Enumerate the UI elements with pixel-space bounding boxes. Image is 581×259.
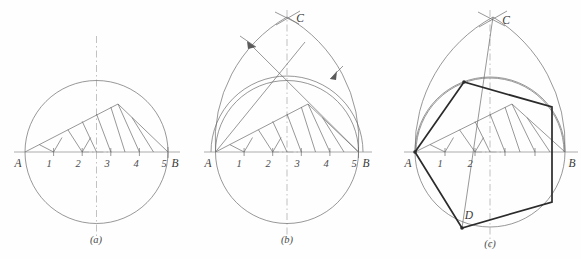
figure-c-label-b: B xyxy=(568,157,575,169)
figure-a-label-b: B xyxy=(171,157,178,169)
figure-c-label-c: C xyxy=(502,14,510,26)
figure-a-division-label-3: 3 xyxy=(103,158,109,169)
figure-b-division-label-2: 2 xyxy=(265,158,271,169)
figure-a-division-label-1: 1 xyxy=(46,158,51,169)
figure-a-division-label-5: 5 xyxy=(161,158,166,169)
figure-b-division-ticks xyxy=(244,147,358,158)
figure-a-division-label-2: 2 xyxy=(75,158,81,169)
figure-c-arc-apex-to-right xyxy=(493,17,565,152)
figure-c-division-label-1: 1 xyxy=(437,158,442,169)
figure-c-division-label-2: 2 xyxy=(467,158,473,169)
figure-b-construction-line-a-to-c xyxy=(216,42,306,152)
figure-a-division-ticks xyxy=(54,147,168,158)
figure-b-division-label-3: 3 xyxy=(293,158,299,169)
figure-b-label-b: B xyxy=(362,157,369,169)
figure-c-caption: (c) xyxy=(484,238,496,250)
figure-c: A B C D 1 2 (c) xyxy=(403,10,578,250)
figure-b-label-a: A xyxy=(203,157,212,169)
figure-b: A B C 1 2 3 4 5 (b) xyxy=(203,10,372,246)
figure-b-label-c: C xyxy=(296,12,304,24)
figure-b-caption: (b) xyxy=(281,234,294,246)
figure-b-division-label-4: 4 xyxy=(323,158,329,169)
figure-c-label-a: A xyxy=(403,157,412,169)
figure-b-construction-line-b-to-c xyxy=(253,47,359,152)
figure-b-division-label-1: 1 xyxy=(236,158,241,169)
figure-a-label-a: A xyxy=(13,157,22,169)
figure-a-caption: (a) xyxy=(90,234,103,246)
figure-c-inscribed-polygon xyxy=(415,82,552,228)
technical-drawing-canvas: A B 1 2 3 4 5 (a) xyxy=(0,0,581,259)
figure-b-division-label-5: 5 xyxy=(351,158,356,169)
drawing-sheet: A B 1 2 3 4 5 (a) xyxy=(0,0,581,259)
figure-a: A B 1 2 3 4 5 (a) xyxy=(13,36,180,246)
figure-c-label-d: D xyxy=(464,209,474,221)
figure-a-division-label-4: 4 xyxy=(133,158,139,169)
figure-c-arc-left-to-apex xyxy=(415,17,493,152)
figure-c-construction-line-c-to-d xyxy=(462,17,493,228)
